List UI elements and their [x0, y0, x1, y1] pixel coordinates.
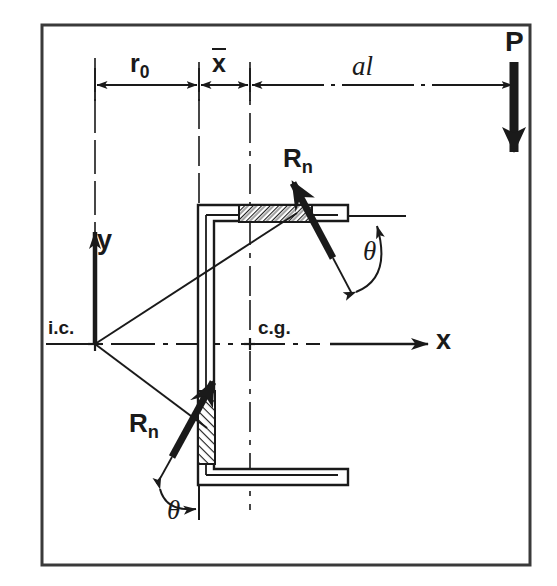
- force-vector-Rn-top: [293, 183, 352, 294]
- instant-center-label: i.c.: [48, 318, 74, 337]
- angle-label-theta-top: θ: [363, 238, 376, 265]
- axis-label-y: y: [97, 227, 112, 254]
- dimension-label-xbar: x: [212, 48, 226, 76]
- force-label-Rn-top: Rn: [283, 145, 313, 176]
- weld-top: [239, 205, 312, 222]
- load-label-P: P: [505, 28, 524, 56]
- center-of-gravity-marker: [244, 338, 256, 350]
- dimension-label-al: al: [352, 53, 373, 80]
- figure-root: r0 x al P y x i.c. c.g. Rn Rn θ θ: [0, 0, 557, 586]
- force-label-Rn-bottom: Rn: [129, 410, 159, 441]
- angle-indicator-theta-top: [348, 216, 406, 292]
- diagram-canvas: [0, 0, 557, 586]
- angle-label-theta-bottom: θ: [167, 497, 180, 524]
- dimension-label-r0: r0: [130, 51, 149, 82]
- dimension-chain: [95, 68, 512, 101]
- dimension-extension-lines: [95, 58, 250, 510]
- center-of-gravity-label: c.g.: [258, 318, 291, 337]
- axis-label-x: x: [436, 327, 451, 354]
